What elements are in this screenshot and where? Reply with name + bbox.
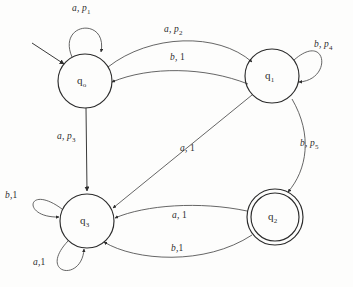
fsm-diagram: qo q1 q3 q2 a, p1 a, p2 b, 1 b, p4 a, p3… bbox=[0, 0, 353, 287]
edge-q3-q3-self-b bbox=[33, 199, 62, 217]
edge-label-q1-q2: b, p5 bbox=[300, 138, 319, 151]
edge-q1-q1-self bbox=[294, 51, 322, 82]
edge-label-q1-q0: b, 1 bbox=[170, 52, 185, 62]
state-label-q0: qo bbox=[77, 74, 86, 89]
edge-label-q3-self-a: a,1 bbox=[33, 257, 45, 267]
state-label-q2: q2 bbox=[268, 210, 277, 225]
edge-label-q2-q3-b: b,1 bbox=[171, 243, 183, 253]
edge-label-q0-q1: a, p2 bbox=[164, 24, 183, 37]
edge-label-q1-self: b, p4 bbox=[314, 39, 333, 52]
edge-label-q3-self-b: b,1 bbox=[5, 190, 17, 200]
edge-q0-q3 bbox=[86, 108, 87, 191]
start-arrow bbox=[32, 43, 64, 64]
edge-q0-q0-self bbox=[69, 28, 101, 57]
edge-label-q2-q3-a: a, 1 bbox=[172, 210, 187, 220]
state-label-q3: q3 bbox=[80, 214, 89, 229]
edge-label-q0-q3: a, p3 bbox=[57, 131, 76, 144]
edge-q1-q0 bbox=[112, 71, 248, 84]
edge-label-q0-self: a, p1 bbox=[72, 3, 91, 16]
edge-q3-q3-self-a bbox=[57, 241, 84, 271]
state-label-q1: q1 bbox=[265, 69, 274, 84]
edge-label-q1-q3: a, 1 bbox=[180, 143, 195, 153]
